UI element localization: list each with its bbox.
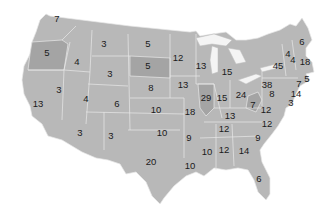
state-label-va: 12 [261,105,272,115]
state-label-tx: 20 [146,157,157,167]
state-label-ky: 13 [225,111,236,121]
state-label-wa: 7 [54,14,59,24]
state-label-ga: 14 [239,146,250,156]
state-label-ca: 13 [33,99,44,109]
state-label-md: 8 [269,89,274,99]
state-label-nd: 5 [145,39,150,49]
state-label-il: 29 [201,93,212,103]
state-label-mt: 3 [101,39,106,49]
state-label-sd: 5 [145,61,150,71]
state-label-la: 10 [185,161,196,171]
state-label-de: 3 [288,98,293,108]
state-label-ma: 18 [300,57,311,67]
state-label-ne: 8 [148,83,153,93]
state-label-me: 6 [299,37,304,47]
state-label-nm: 3 [108,131,113,141]
state-label-ut: 4 [83,94,88,104]
state-label-nc: 12 [262,119,273,129]
state-label-ia: 13 [178,80,189,90]
state-label-ri: 5 [304,74,309,84]
state-label-id: 4 [74,57,79,67]
state-label-fl: 6 [256,174,261,184]
state-label-or: 5 [44,48,49,58]
state-label-al: 12 [219,145,230,155]
state-label-ct: 7 [296,79,301,89]
state-label-nv: 3 [56,85,61,95]
state-label-ks: 10 [151,105,162,115]
state-label-az: 3 [77,128,82,138]
state-label-sc: 9 [255,133,260,143]
state-label-ny: 45 [273,61,284,71]
state-label-wi: 13 [196,61,207,71]
state-label-nj: 14 [291,89,302,99]
state-label-ms: 10 [202,147,213,157]
state-label-ar: 9 [186,133,191,143]
state-label-wy: 3 [107,69,112,79]
state-label-mo: 18 [185,107,196,117]
state-label-in: 15 [217,93,228,103]
state-label-wv: 7 [250,100,255,110]
us-map [0,0,329,216]
state-label-oh: 24 [236,90,247,100]
state-label-mn: 12 [173,53,184,63]
state-label-mi: 15 [222,67,233,77]
state-label-ok: 10 [157,128,168,138]
state-label-co: 6 [114,99,119,109]
state-label-nh: 4 [290,55,295,65]
state-label-tn: 12 [219,124,230,134]
